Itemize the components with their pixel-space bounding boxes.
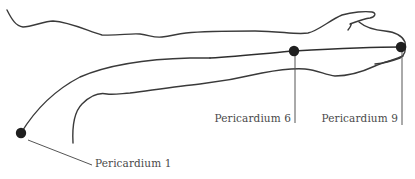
arm-meridian-diagram — [0, 0, 415, 179]
pericardium-6-label: Pericardium 6 — [200, 113, 291, 124]
pericardium-1-point — [16, 128, 26, 138]
arm-upper-contour — [7, 10, 375, 37]
arm-lower-contour — [73, 56, 403, 143]
p1-leader-line — [28, 140, 92, 165]
arm-outer-arc — [21, 58, 210, 133]
pericardium-6-point — [289, 46, 299, 56]
pericardium-9-label: Pericardium 9 — [306, 113, 398, 124]
pericardium-meridian-line — [210, 47, 401, 58]
pericardium-1-label: Pericardium 1 — [95, 158, 171, 169]
pericardium-9-point — [396, 42, 406, 52]
